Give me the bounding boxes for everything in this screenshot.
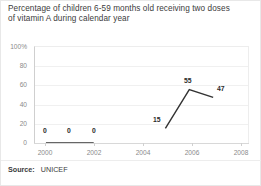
x-axis-tick-2006 xyxy=(192,143,193,146)
x-axis-tick-2002 xyxy=(94,143,95,146)
y-axis-tick-label-0: 0 xyxy=(1,139,27,146)
x-axis-tick-label-2000: 2000 xyxy=(25,149,65,156)
point-label-2005: 15 xyxy=(153,116,161,123)
source-row: Source:UNICEF xyxy=(8,165,68,174)
point-label-2006: 55 xyxy=(184,77,192,84)
source-value: UNICEF xyxy=(41,165,68,174)
point-label-2001: 0 xyxy=(67,127,71,134)
y-axis-tick-label-80: 80 xyxy=(1,62,27,69)
point-label-2000: 0 xyxy=(43,127,47,134)
line-segment-2005-2007 xyxy=(165,90,213,129)
source-label: Source: xyxy=(8,165,35,174)
x-axis-tick-label-2002: 2002 xyxy=(74,149,114,156)
x-axis-tick-2004 xyxy=(143,143,144,146)
x-axis-tick-2000 xyxy=(45,143,46,146)
x-axis-tick-label-2006: 2006 xyxy=(172,149,212,156)
chart-figure: Percentage of children 6-59 months old r… xyxy=(0,0,261,186)
x-axis-tick-label-2008: 2008 xyxy=(221,149,261,156)
point-label-2002: 0 xyxy=(92,127,96,134)
footer-divider xyxy=(1,160,261,161)
x-axis-tick-label-2004: 2004 xyxy=(123,149,163,156)
y-axis-tick-label-60: 60 xyxy=(1,81,27,88)
chart-title: Percentage of children 6-59 months old r… xyxy=(8,4,256,25)
y-axis-tick-label-20: 20 xyxy=(1,120,27,127)
x-axis-line xyxy=(34,143,249,144)
y-axis-tick-label-40: 40 xyxy=(1,101,27,108)
point-label-2007: 47 xyxy=(217,85,225,92)
x-axis-tick-2008 xyxy=(241,143,242,146)
y-axis-tick-label-100: 100% xyxy=(1,43,27,50)
